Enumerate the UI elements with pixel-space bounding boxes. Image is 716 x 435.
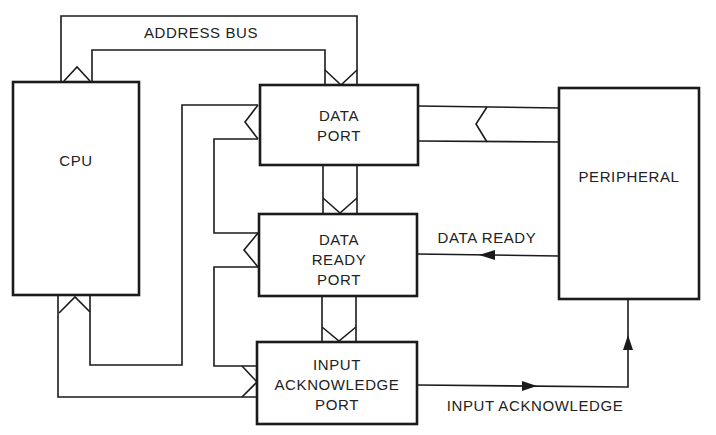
cpu-label: CPU [59,152,92,169]
bus-arrowhead-inputack-left [242,366,257,397]
data-port-label-2: PORT [317,127,361,144]
arrow-up-icon [623,335,633,350]
peripheral-block: PERIPHERAL [559,88,699,299]
arrow-left-icon [479,250,495,260]
input-ack-port-label-3: PORT [315,396,359,413]
input-ack-port-block: INPUT ACKNOWLEDGE PORT [257,342,417,424]
input-ack-signal [417,299,633,391]
bus-arrowhead-peripheral-bus [476,107,487,142]
data-ready-signal [417,250,558,260]
peripheral-label: PERIPHERAL [578,168,679,185]
port-bus-2 [322,296,356,342]
peripheral-data-bus [418,106,559,142]
input-ack-port-label-2: ACKNOWLEDGE [275,376,400,393]
port-bus-1 [323,165,357,214]
diagram-canvas: CPU DATA PORT DATA READY PORT INPUT ACKN… [0,0,716,435]
cpu-block: CPU [13,82,139,295]
data-port-label-1: DATA [319,107,359,124]
arrow-right-icon [522,381,537,391]
bus-arrowhead-inputack-top [322,327,356,341]
data-ready-port-label-1: DATA [319,231,359,248]
data-port-block: DATA PORT [260,85,418,165]
bus-arrowhead-cpu-bottom [59,297,90,313]
bus-arrowhead-dataport-top [325,70,357,85]
input-ack-port-label-1: INPUT [313,356,361,373]
data-ready-port-label-2: READY [312,251,367,268]
data-ready-port-label-3: PORT [317,271,361,288]
data-ready-label: DATA READY [438,229,537,246]
bus-arrowhead-dataready-left [244,233,258,267]
bus-arrowhead-dataport-left [245,105,258,139]
input-acknowledge-label: INPUT ACKNOWLEDGE [447,397,624,414]
bus-arrowhead-cpu-top [64,67,90,81]
data-ready-port-block: DATA READY PORT [259,214,417,296]
bus-arrowhead-dataready-top [323,198,357,213]
address-bus-label: ADDRESS BUS [144,24,258,41]
